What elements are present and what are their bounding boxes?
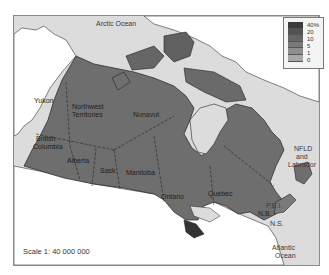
arctic-island-2 — [126, 46, 164, 70]
legend: 40% 20 10 5 1 0 — [283, 17, 324, 69]
legend-label-20: 20 — [307, 29, 314, 36]
scale-label: Scale 1: 40 000 000 — [23, 247, 90, 256]
label-northwest-territories-1: Northwest — [72, 103, 104, 111]
label-atlantic-ocean-2: Ocean — [275, 252, 296, 260]
legend-label-40: 40% — [307, 22, 319, 29]
label-yukon: Yukon — [34, 97, 53, 105]
label-nunavut: Nunavut — [133, 111, 159, 119]
legend-label-5: 5 — [307, 43, 310, 50]
legend-swatch-5 — [288, 42, 303, 49]
label-alberta: Alberta — [67, 157, 89, 165]
label-british-columbia-2: Columbia — [33, 143, 63, 151]
legend-swatch-40 — [288, 22, 303, 29]
legend-label-0: 0 — [307, 57, 310, 64]
legend-label-10: 10 — [307, 36, 314, 43]
legend-label-1: 1 — [307, 50, 310, 57]
label-arctic-ocean: Arctic Ocean — [96, 20, 136, 28]
legend-swatch-10 — [288, 35, 303, 42]
label-northwest-territories-2: Territories — [72, 111, 103, 119]
label-nfld-1: NFLD — [294, 145, 312, 153]
label-atlantic-ocean-1: Atlantic — [272, 244, 295, 252]
label-manitoba: Manitoba — [126, 169, 155, 177]
map-frame: Arctic Ocean Yukon Northwest Territories… — [13, 15, 320, 266]
label-nova-scotia: N.S. — [270, 220, 284, 228]
legend-swatch-0 — [288, 55, 303, 62]
label-saskatchewan: Sask. — [100, 167, 118, 175]
legend-swatch-20 — [288, 29, 303, 36]
label-pei: P.E.I. — [266, 202, 282, 210]
label-nfld-2: and — [296, 153, 308, 161]
label-nfld-3: Labrador — [288, 161, 316, 169]
arctic-island-3 — [184, 68, 246, 102]
label-new-brunswick: N.B. — [258, 210, 272, 218]
label-ontario: Ontario — [161, 193, 184, 201]
label-quebec: Quebec — [208, 190, 233, 198]
arctic-island-1 — [164, 32, 194, 62]
legend-swatch-1 — [288, 48, 303, 55]
label-british-columbia-1: British — [36, 135, 55, 143]
